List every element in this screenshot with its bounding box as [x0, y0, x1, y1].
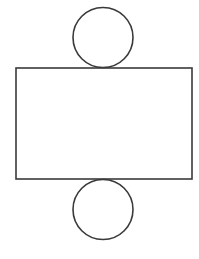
cylinder-net-diagram	[0, 0, 199, 259]
background	[0, 0, 199, 259]
